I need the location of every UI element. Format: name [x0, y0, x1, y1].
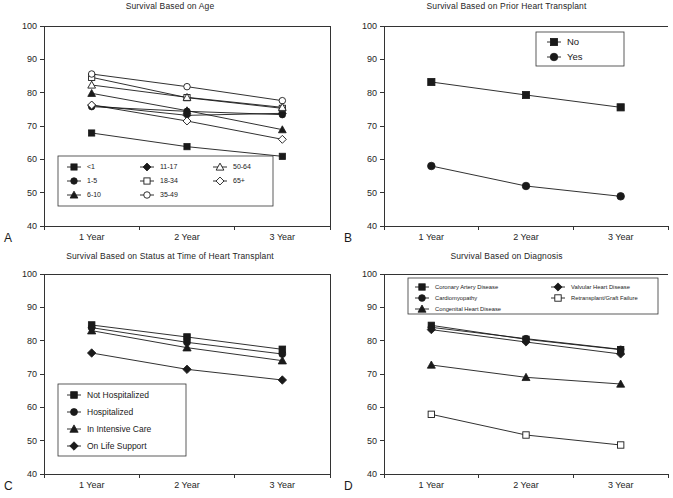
data-point-65--3: [278, 135, 286, 143]
legend-label: Valvular Heart Disease: [571, 284, 630, 290]
y-tick-label: 60: [367, 154, 377, 164]
x-tick-label: 3 Year: [608, 480, 634, 490]
data-point-yes-2: [522, 182, 530, 190]
legend-label: Cardiomyopathy: [435, 295, 477, 301]
legend: Coronary Artery DiseaseCardiomyopathyCon…: [408, 278, 658, 314]
y-tick-label: 60: [367, 402, 377, 412]
data-point-no-3: [617, 104, 624, 111]
legend-marker-filled-square: [550, 38, 557, 45]
legend: <11-56-1011-1718-3435-4950-6465+: [58, 156, 273, 206]
panel-b-plot: 1009080706050401 Year2 Year3 YearNoYes: [340, 0, 673, 250]
legend-marker-open-square: [555, 295, 561, 301]
y-tick-label: 80: [367, 88, 377, 98]
data-point-retransplant-graft-failure-2: [523, 432, 529, 438]
legend-label: 65+: [233, 177, 245, 184]
legend-marker-filled-square: [71, 392, 78, 399]
survival-figure: Survival Based on Age A 1009080706050401…: [0, 0, 673, 498]
legend-label: 1-5: [87, 177, 97, 184]
legend-label: Coronary Artery Disease: [435, 284, 498, 290]
x-tick-label: 2 Year: [174, 480, 200, 490]
y-tick-label: 60: [27, 402, 37, 412]
data-point-6-10-1: [88, 89, 96, 96]
x-tick-label: 2 Year: [174, 232, 200, 242]
y-tick-label: 90: [367, 54, 377, 64]
y-tick-label: 70: [367, 369, 377, 379]
legend-marker-filled-circle: [71, 178, 78, 185]
legend-label: No: [567, 36, 579, 47]
legend-label: Yes: [567, 51, 583, 62]
y-tick-label: 100: [22, 21, 37, 31]
y-tick-label: 50: [367, 436, 377, 446]
legend: NoYes: [536, 32, 624, 66]
data-point-retransplant-graft-failure-1: [428, 411, 434, 417]
data-point-on-life-support-3: [278, 376, 286, 384]
y-tick-label: 90: [27, 54, 37, 64]
legend-label: In Intensive Care: [87, 424, 152, 434]
legend: Not HospitalizedHospitalizedIn Intensive…: [58, 384, 186, 456]
legend-marker-filled-circle: [419, 295, 426, 302]
legend-label: <1: [87, 163, 95, 170]
x-tick-label: 1 Year: [79, 480, 105, 490]
y-tick-label: 50: [367, 188, 377, 198]
data-point-35-49-1: [88, 71, 95, 78]
legend-marker-filled-square: [419, 284, 425, 290]
legend-marker-filled-square: [71, 164, 77, 170]
y-tick-label: 70: [27, 121, 37, 131]
series-line-yes: [431, 166, 620, 196]
data-point-yes-3: [617, 193, 625, 201]
y-tick-label: 40: [27, 221, 37, 231]
data-point-on-life-support-1: [87, 349, 95, 357]
data-point--1-3: [279, 153, 285, 159]
x-tick-label: 2 Year: [513, 480, 539, 490]
data-point-65--2: [183, 117, 191, 125]
panel-c: Survival Based on Status at Time of Hear…: [0, 250, 340, 498]
legend-label: On Life Support: [87, 441, 147, 451]
x-tick-label: 1 Year: [419, 232, 445, 242]
y-tick-label: 50: [27, 436, 37, 446]
panel-d: Survival Based on Diagnosis D 1009080706…: [340, 250, 673, 498]
data-point-congenital-heart-disease-1: [427, 361, 435, 368]
x-tick-label: 3 Year: [270, 480, 296, 490]
data-point-yes-1: [428, 162, 436, 170]
legend-label: Retransplant/Graft Failure: [571, 295, 638, 301]
y-tick-label: 80: [27, 336, 37, 346]
panel-c-plot: 1009080706050401 Year2 Year3 YearNot Hos…: [0, 250, 340, 498]
panel-a-plot: 1009080706050401 Year2 Year3 Year<11-56-…: [0, 0, 340, 250]
legend-marker-filled-circle: [71, 409, 78, 416]
legend-label: Congenital Heart Disease: [435, 306, 501, 312]
series-line-retransplant-graft-failure: [431, 414, 620, 445]
legend-marker-open-square: [144, 178, 150, 184]
y-tick-label: 100: [362, 21, 377, 31]
y-tick-label: 90: [27, 302, 37, 312]
y-tick-label: 40: [367, 469, 377, 479]
panel-b: Survival Based on Prior Heart Transplant…: [340, 0, 673, 250]
x-tick-label: 3 Year: [608, 232, 634, 242]
legend-item-cardiomyopathy[interactable]: Cardiomyopathy: [415, 295, 477, 302]
data-point-35-49-2: [184, 83, 191, 90]
data-point-50-64-1: [88, 81, 96, 88]
x-tick-label: 1 Year: [79, 232, 105, 242]
panel-d-plot: 1009080706050401 Year2 Year3 YearCoronar…: [340, 250, 673, 498]
y-tick-label: 70: [27, 369, 37, 379]
x-tick-label: 1 Year: [419, 480, 445, 490]
data-point--1-1: [89, 130, 95, 136]
data-point-no-2: [522, 91, 529, 98]
legend-label: 18-34: [160, 177, 178, 184]
y-tick-label: 40: [27, 469, 37, 479]
y-tick-label: 40: [367, 221, 377, 231]
legend-label: 6-10: [87, 191, 101, 198]
y-tick-label: 80: [367, 336, 377, 346]
y-tick-label: 80: [27, 88, 37, 98]
y-tick-label: 50: [27, 188, 37, 198]
data-point-on-life-support-2: [183, 365, 191, 373]
y-tick-label: 100: [362, 269, 377, 279]
data-point-no-1: [428, 78, 435, 85]
legend-label: 35-49: [160, 191, 178, 198]
panel-a: Survival Based on Age A 1009080706050401…: [0, 0, 340, 250]
x-tick-label: 3 Year: [270, 232, 296, 242]
y-tick-label: 60: [27, 154, 37, 164]
y-tick-label: 100: [22, 269, 37, 279]
x-tick-label: 2 Year: [513, 232, 539, 242]
y-tick-label: 90: [367, 302, 377, 312]
legend-label: 11-17: [160, 163, 177, 170]
